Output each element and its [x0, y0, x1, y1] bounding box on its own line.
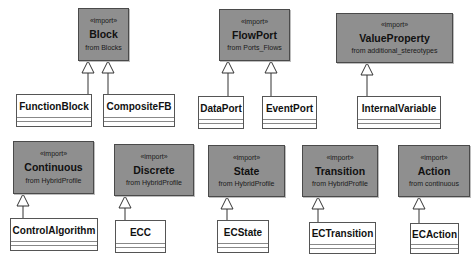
class-name: Continuous	[24, 161, 82, 173]
class-name: ECTransition	[310, 223, 375, 244]
source-package: from HybridProfile	[25, 177, 81, 185]
class-ecstate[interactable]: ECState	[217, 220, 269, 253]
operations-compartment	[11, 245, 97, 250]
stereotype-label: «import»	[420, 154, 447, 162]
imported-class-valueproperty[interactable]: «import» ValueProperty from additional_s…	[336, 13, 453, 63]
stereotype-label: «import»	[381, 21, 408, 29]
class-name: ControlAlgorithm	[11, 219, 97, 241]
generalization-functionblock-block	[82, 61, 94, 94]
imported-class-action[interactable]: «import» Action from continuous	[398, 145, 470, 197]
imported-class-block[interactable]: «import» Block from Blocks	[78, 8, 129, 61]
source-package: from additional_stereotypes	[352, 47, 438, 55]
operations-compartment	[310, 248, 375, 253]
operations-compartment	[104, 121, 174, 126]
class-ecaction[interactable]: ECAction	[410, 223, 459, 254]
stereotype-label: «import»	[90, 17, 117, 25]
class-name: ECC	[116, 221, 165, 243]
class-functionblock[interactable]: FunctionBlock	[16, 94, 92, 127]
class-name: State	[234, 165, 260, 177]
class-ecc[interactable]: ECC	[115, 220, 166, 253]
generalization-ectransition-transition	[312, 197, 324, 222]
class-name: ECAction	[411, 224, 458, 244]
generalization-ecc-discrete	[119, 196, 131, 220]
uml-diagram-canvas: «import» Block from Blocks «import» Flow…	[0, 0, 476, 263]
class-name: FlowPort	[232, 29, 277, 41]
generalization-controlalgorithm-continuous	[17, 194, 29, 218]
stereotype-label: «import»	[241, 18, 268, 26]
class-name: ValueProperty	[359, 32, 430, 44]
imported-class-flowport[interactable]: «import» FlowPort from Ports_Flows	[219, 9, 290, 61]
stereotype-label: «import»	[326, 154, 353, 162]
class-ectransition[interactable]: ECTransition	[309, 222, 376, 254]
operations-compartment	[411, 248, 458, 253]
operations-compartment	[17, 121, 91, 126]
class-name: Block	[89, 28, 118, 40]
operations-compartment	[218, 247, 268, 252]
generalization-ecaction-action	[413, 197, 425, 223]
source-package: from HybridProfile	[218, 180, 274, 188]
imported-class-continuous[interactable]: «import» Continuous from HybridProfile	[13, 141, 94, 194]
source-package: from HybridProfile	[126, 179, 182, 187]
source-package: from Ports_Flows	[227, 44, 281, 52]
class-name: ECState	[218, 221, 268, 243]
generalization-internalvariable-valueproperty	[361, 63, 373, 96]
stereotype-label: «import»	[233, 154, 260, 162]
imported-class-state[interactable]: «import» State from HybridProfile	[208, 145, 285, 197]
class-name: FunctionBlock	[17, 95, 91, 117]
class-name: CompositeFB	[104, 95, 174, 117]
imported-class-transition[interactable]: «import» Transition from HybridProfile	[302, 145, 378, 197]
operations-compartment	[358, 123, 440, 128]
source-package: from Blocks	[85, 44, 122, 52]
class-dataport[interactable]: DataPort	[198, 96, 244, 129]
class-name: Transition	[315, 165, 365, 177]
class-internalvariable[interactable]: InternalVariable	[357, 96, 441, 129]
class-name: InternalVariable	[358, 97, 440, 119]
class-name: Action	[418, 165, 451, 177]
class-compositefb[interactable]: CompositeFB	[103, 94, 175, 127]
stereotype-label: «import»	[140, 153, 167, 161]
source-package: from continuous	[409, 180, 459, 188]
class-eventport[interactable]: EventPort	[262, 96, 317, 129]
operations-compartment	[116, 247, 165, 252]
stereotype-label: «import»	[40, 150, 67, 158]
operations-compartment	[199, 123, 243, 128]
class-name: Discrete	[133, 164, 174, 176]
class-name: DataPort	[199, 97, 243, 119]
class-name: EventPort	[263, 97, 316, 119]
imported-class-discrete[interactable]: «import» Discrete from HybridProfile	[114, 144, 194, 196]
generalization-compositefb-block	[102, 61, 114, 94]
generalization-dataport-flowport	[222, 61, 234, 96]
generalization-ecstate-state	[221, 197, 233, 220]
class-controlalgorithm[interactable]: ControlAlgorithm	[10, 218, 98, 251]
generalization-eventport-flowport	[265, 61, 277, 96]
source-package: from HybridProfile	[312, 180, 368, 188]
operations-compartment	[263, 123, 316, 128]
